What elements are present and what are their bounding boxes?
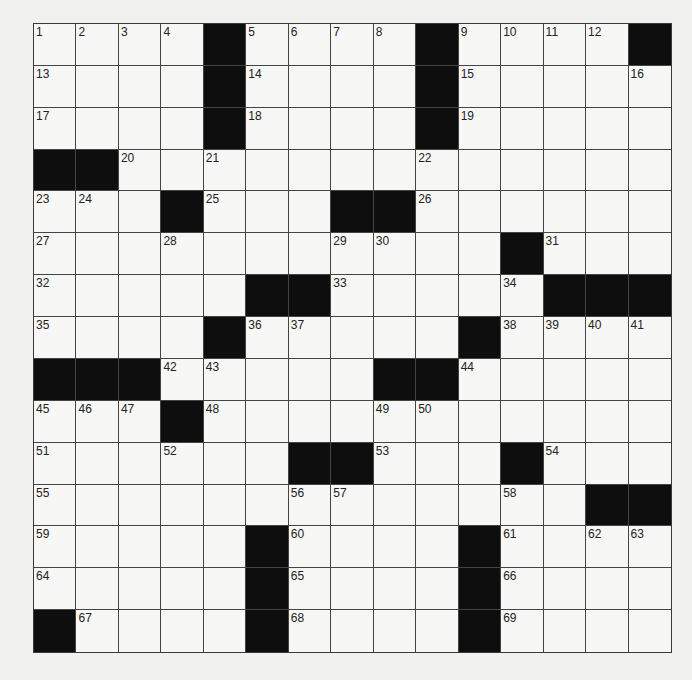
grid-cell[interactable]: 26 (416, 191, 458, 233)
grid-cell[interactable] (246, 401, 288, 443)
grid-cell[interactable]: 44 (459, 359, 501, 401)
grid-cell[interactable] (289, 233, 331, 275)
grid-cell[interactable] (161, 317, 203, 359)
grid-cell[interactable] (119, 317, 161, 359)
grid-cell[interactable]: 46 (76, 401, 118, 443)
grid-cell[interactable]: 60 (289, 526, 331, 568)
grid-cell[interactable] (119, 108, 161, 150)
grid-cell[interactable] (331, 150, 373, 192)
grid-cell[interactable]: 20 (119, 150, 161, 192)
grid-cell[interactable] (161, 610, 203, 652)
grid-cell[interactable] (416, 485, 458, 527)
grid-cell[interactable] (544, 401, 586, 443)
grid-cell[interactable] (331, 66, 373, 108)
grid-cell[interactable] (374, 526, 416, 568)
grid-cell[interactable]: 36 (246, 317, 288, 359)
grid-cell[interactable] (374, 317, 416, 359)
grid-cell[interactable] (161, 485, 203, 527)
grid-cell[interactable]: 65 (289, 568, 331, 610)
grid-cell[interactable]: 57 (331, 485, 373, 527)
grid-cell[interactable]: 49 (374, 401, 416, 443)
grid-cell[interactable] (374, 485, 416, 527)
grid-cell[interactable]: 23 (34, 191, 76, 233)
grid-cell[interactable] (416, 317, 458, 359)
grid-cell[interactable]: 17 (34, 108, 76, 150)
grid-cell[interactable]: 16 (629, 66, 671, 108)
grid-cell[interactable]: 28 (161, 233, 203, 275)
grid-cell[interactable]: 37 (289, 317, 331, 359)
grid-cell[interactable]: 53 (374, 443, 416, 485)
grid-cell[interactable]: 40 (586, 317, 628, 359)
grid-cell[interactable]: 31 (544, 233, 586, 275)
grid-cell[interactable]: 18 (246, 108, 288, 150)
grid-cell[interactable] (544, 359, 586, 401)
grid-cell[interactable] (416, 443, 458, 485)
grid-cell[interactable] (204, 233, 246, 275)
grid-cell[interactable] (416, 568, 458, 610)
grid-cell[interactable]: 45 (34, 401, 76, 443)
grid-cell[interactable]: 7 (331, 24, 373, 66)
grid-cell[interactable]: 52 (161, 443, 203, 485)
grid-cell[interactable] (459, 275, 501, 317)
grid-cell[interactable] (331, 359, 373, 401)
grid-cell[interactable] (331, 317, 373, 359)
grid-cell[interactable] (416, 610, 458, 652)
grid-cell[interactable] (161, 66, 203, 108)
grid-cell[interactable] (586, 233, 628, 275)
grid-cell[interactable]: 25 (204, 191, 246, 233)
grid-cell[interactable] (629, 568, 671, 610)
grid-cell[interactable]: 22 (416, 150, 458, 192)
grid-cell[interactable] (459, 191, 501, 233)
grid-cell[interactable] (204, 443, 246, 485)
grid-cell[interactable] (586, 108, 628, 150)
grid-cell[interactable]: 9 (459, 24, 501, 66)
grid-cell[interactable]: 15 (459, 66, 501, 108)
grid-cell[interactable] (586, 359, 628, 401)
grid-cell[interactable] (374, 108, 416, 150)
grid-cell[interactable] (204, 568, 246, 610)
grid-cell[interactable] (76, 66, 118, 108)
grid-cell[interactable]: 24 (76, 191, 118, 233)
grid-cell[interactable] (629, 150, 671, 192)
grid-cell[interactable] (246, 359, 288, 401)
grid-cell[interactable] (76, 108, 118, 150)
grid-cell[interactable] (246, 443, 288, 485)
grid-cell[interactable] (161, 108, 203, 150)
grid-cell[interactable]: 54 (544, 443, 586, 485)
grid-cell[interactable] (544, 568, 586, 610)
grid-cell[interactable] (331, 401, 373, 443)
grid-cell[interactable] (544, 191, 586, 233)
grid-cell[interactable] (76, 233, 118, 275)
grid-cell[interactable]: 67 (76, 610, 118, 652)
grid-cell[interactable] (416, 275, 458, 317)
grid-cell[interactable]: 30 (374, 233, 416, 275)
grid-cell[interactable]: 59 (34, 526, 76, 568)
grid-cell[interactable] (629, 191, 671, 233)
grid-cell[interactable] (119, 191, 161, 233)
grid-cell[interactable]: 63 (629, 526, 671, 568)
grid-cell[interactable]: 5 (246, 24, 288, 66)
grid-cell[interactable] (501, 66, 543, 108)
grid-cell[interactable] (161, 150, 203, 192)
grid-cell[interactable]: 58 (501, 485, 543, 527)
grid-cell[interactable] (204, 275, 246, 317)
grid-cell[interactable]: 39 (544, 317, 586, 359)
grid-cell[interactable] (76, 443, 118, 485)
grid-cell[interactable]: 34 (501, 275, 543, 317)
grid-cell[interactable] (544, 610, 586, 652)
grid-cell[interactable] (501, 150, 543, 192)
grid-cell[interactable] (119, 485, 161, 527)
grid-cell[interactable] (119, 568, 161, 610)
grid-cell[interactable]: 56 (289, 485, 331, 527)
grid-cell[interactable] (501, 359, 543, 401)
grid-cell[interactable] (459, 150, 501, 192)
grid-cell[interactable] (289, 150, 331, 192)
grid-cell[interactable]: 4 (161, 24, 203, 66)
grid-cell[interactable]: 11 (544, 24, 586, 66)
grid-cell[interactable] (459, 443, 501, 485)
grid-cell[interactable]: 66 (501, 568, 543, 610)
grid-cell[interactable] (76, 485, 118, 527)
grid-cell[interactable] (289, 401, 331, 443)
grid-cell[interactable] (544, 485, 586, 527)
grid-cell[interactable]: 21 (204, 150, 246, 192)
